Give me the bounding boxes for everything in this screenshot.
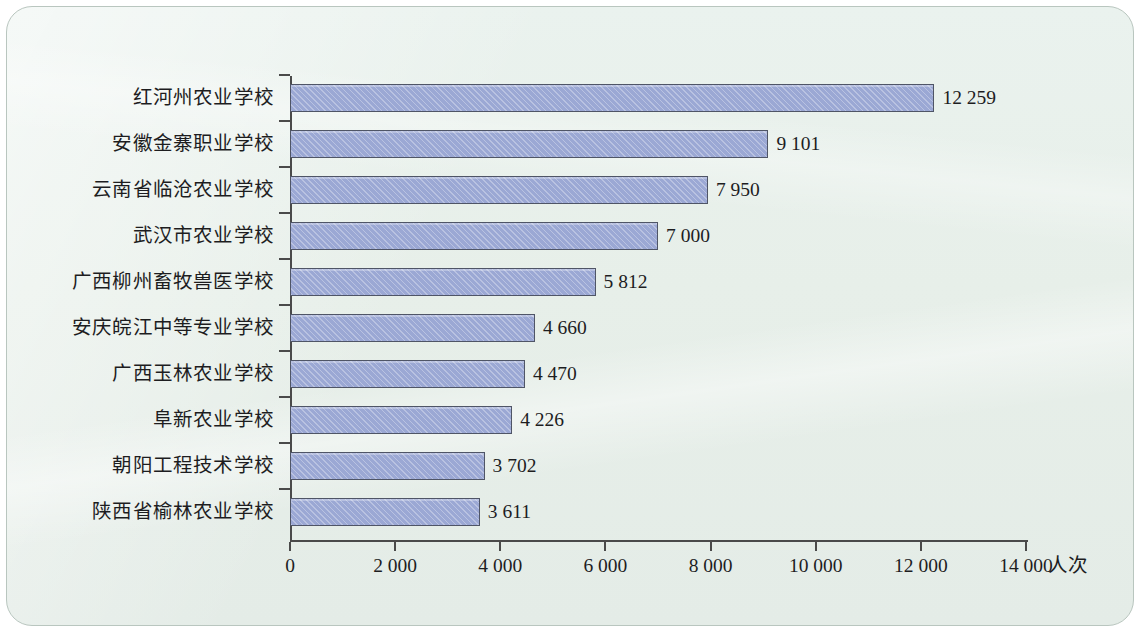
bar-value-label: 7 000 bbox=[666, 226, 710, 246]
bar-value-label: 9 101 bbox=[776, 134, 820, 154]
x-axis-tick bbox=[289, 542, 291, 551]
bar bbox=[290, 498, 480, 526]
y-axis-tick bbox=[279, 396, 290, 398]
bar bbox=[290, 406, 512, 434]
y-axis-tick bbox=[279, 442, 290, 444]
category-label: 陕西省榆林农业学校 bbox=[2, 502, 282, 522]
x-axis-tick-label: 10 000 bbox=[789, 556, 843, 576]
bar-value-label: 7 950 bbox=[716, 180, 760, 200]
bar bbox=[290, 360, 525, 388]
chart-screenshot: 02 0004 0006 0008 00010 00012 00014 000人… bbox=[0, 0, 1142, 634]
category-label: 安庆皖江中等专业学校 bbox=[2, 318, 282, 338]
category-label: 武汉市农业学校 bbox=[2, 226, 282, 246]
category-label: 广西柳州畜牧兽医学校 bbox=[2, 272, 282, 292]
x-axis-tick-label: 8 000 bbox=[689, 556, 733, 576]
x-axis-tick bbox=[920, 542, 922, 551]
category-label: 广西玉林农业学校 bbox=[2, 364, 282, 384]
bar bbox=[290, 84, 934, 112]
x-axis-unit-label: 人次 bbox=[1048, 556, 1088, 576]
bar bbox=[290, 176, 708, 204]
x-axis-tick bbox=[815, 542, 817, 551]
bar bbox=[290, 222, 658, 250]
bar-value-label: 4 660 bbox=[543, 318, 587, 338]
category-label: 阜新农业学校 bbox=[2, 410, 282, 430]
y-axis-tick bbox=[279, 74, 290, 76]
x-axis-tick-label: 4 000 bbox=[478, 556, 522, 576]
x-axis-tick-label: 0 bbox=[285, 556, 295, 576]
y-axis-tick bbox=[279, 212, 290, 214]
x-axis-tick bbox=[1025, 542, 1027, 551]
bar-value-label: 4 226 bbox=[520, 410, 564, 430]
category-label: 云南省临沧农业学校 bbox=[2, 180, 282, 200]
x-axis-tick bbox=[710, 542, 712, 551]
category-label: 安徽金寨职业学校 bbox=[2, 134, 282, 154]
y-axis-tick bbox=[279, 166, 290, 168]
category-label: 朝阳工程技术学校 bbox=[2, 456, 282, 476]
bar bbox=[290, 130, 768, 158]
x-axis-tick-label: 12 000 bbox=[894, 556, 948, 576]
y-axis-tick bbox=[279, 120, 290, 122]
y-axis-tick bbox=[279, 258, 290, 260]
bar bbox=[290, 314, 535, 342]
y-axis-tick bbox=[279, 488, 290, 490]
x-axis-tick-label: 2 000 bbox=[373, 556, 417, 576]
x-axis-tick bbox=[604, 542, 606, 551]
y-axis-tick bbox=[279, 350, 290, 352]
x-axis-tick bbox=[394, 542, 396, 551]
x-axis-line bbox=[290, 540, 1028, 542]
bar-value-label: 3 702 bbox=[493, 456, 537, 476]
bar bbox=[290, 452, 485, 480]
x-axis-tick-label: 6 000 bbox=[583, 556, 627, 576]
bar-value-label: 12 259 bbox=[942, 88, 996, 108]
x-axis-tick-label: 14 000 bbox=[999, 556, 1053, 576]
x-axis-tick bbox=[499, 542, 501, 551]
bar bbox=[290, 268, 596, 296]
bar-value-label: 5 812 bbox=[604, 272, 648, 292]
bar-chart-plot-area: 02 0004 0006 0008 00010 00012 00014 000人… bbox=[0, 0, 1142, 634]
y-axis-tick bbox=[279, 304, 290, 306]
category-label: 红河州农业学校 bbox=[2, 88, 282, 108]
bar-value-label: 3 611 bbox=[488, 502, 531, 522]
bar-value-label: 4 470 bbox=[533, 364, 577, 384]
